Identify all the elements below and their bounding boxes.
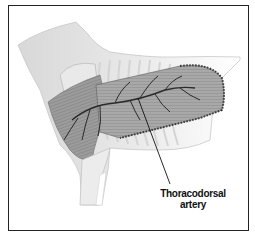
label-line-2: artery — [158, 199, 228, 210]
label-line-1: Thoracodorsal — [158, 188, 228, 199]
thoracodorsal-artery-label: Thoracodorsal artery — [158, 188, 228, 210]
